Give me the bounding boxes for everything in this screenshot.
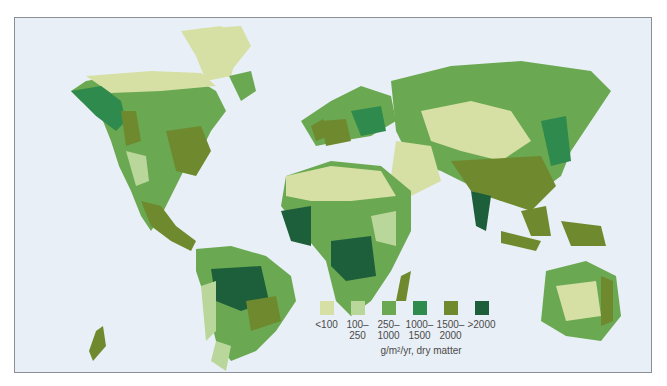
africa <box>281 161 411 316</box>
legend-item: >2000 <box>466 301 497 341</box>
australia <box>541 261 621 341</box>
southeast-asia-islands <box>501 206 606 251</box>
legend-item: 100– 250 <box>342 301 373 341</box>
legend-label: 1000– 1500 <box>406 319 434 341</box>
legend-label: 100– 250 <box>346 319 368 341</box>
map-frame: <100 100– 250 250– 1000 1000– 1500 1500–… <box>14 17 652 373</box>
legend-swatches: <100 100– 250 250– 1000 1000– 1500 1500–… <box>311 301 531 341</box>
asia <box>391 61 611 231</box>
legend-label: 1500– 2000 <box>437 319 465 341</box>
legend-label: >2000 <box>467 319 495 330</box>
south-america <box>196 246 296 371</box>
legend-swatch <box>475 301 489 315</box>
legend-label: 250– 1000 <box>377 319 399 341</box>
legend: <100 100– 250 250– 1000 1000– 1500 1500–… <box>311 301 531 356</box>
legend-item: 250– 1000 <box>373 301 404 341</box>
legend-swatch <box>351 301 365 315</box>
legend-item: 1500– 2000 <box>435 301 466 341</box>
legend-item: <100 <box>311 301 342 341</box>
new-zealand <box>89 326 106 361</box>
legend-item: 1000– 1500 <box>404 301 435 341</box>
europe <box>301 86 396 146</box>
legend-swatch <box>320 301 334 315</box>
legend-swatch <box>444 301 458 315</box>
legend-unit-label: g/m²/yr, dry matter <box>311 345 531 356</box>
legend-swatch <box>413 301 427 315</box>
legend-swatch <box>382 301 396 315</box>
legend-label: <100 <box>315 319 338 330</box>
